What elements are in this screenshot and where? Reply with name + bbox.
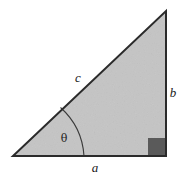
triangle-graphic <box>0 0 182 178</box>
label-angle-theta: θ <box>61 133 68 144</box>
label-vertical-leg-b: b <box>170 86 177 99</box>
label-hypotenuse-c: c <box>75 71 81 84</box>
right-triangle-diagram: c b a θ <box>0 0 182 178</box>
right-angle-square <box>148 138 166 156</box>
label-horizontal-leg-a: a <box>92 161 99 174</box>
